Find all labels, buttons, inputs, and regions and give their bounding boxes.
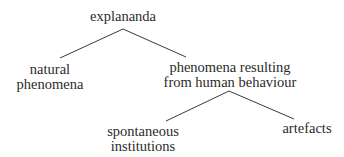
edge-human-to-spontaneous <box>166 91 229 121</box>
node-label: explananda <box>78 9 168 24</box>
edge-root-to-natural <box>60 29 123 58</box>
node-label-line2: phenomena <box>4 77 96 92</box>
node-artefacts: artefacts <box>270 121 344 136</box>
node-spontaneous-institutions: spontaneous institutions <box>96 124 190 154</box>
node-explananda: explananda <box>78 9 168 24</box>
node-label-line1: phenomena resulting <box>160 60 300 75</box>
node-label-line2: from human behaviour <box>160 75 300 90</box>
edge-human-to-artefacts <box>229 91 294 119</box>
node-label-line1: natural <box>4 62 96 77</box>
node-label-line1: spontaneous <box>96 124 190 139</box>
edge-root-to-human <box>123 29 186 57</box>
tree-diagram: explananda natural phenomena phenomena r… <box>0 0 344 157</box>
node-label: artefacts <box>270 121 344 136</box>
node-human-behaviour-phenomena: phenomena resulting from human behaviour <box>160 60 300 90</box>
node-label-line2: institutions <box>96 139 190 154</box>
node-natural-phenomena: natural phenomena <box>4 62 96 92</box>
